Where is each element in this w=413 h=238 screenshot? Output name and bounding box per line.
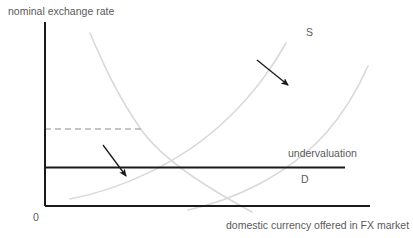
undervaluation-label: undervaluation [288,148,357,159]
supply-curve-original [70,43,286,199]
fx-market-diagram [0,0,413,238]
rate-fall-arrow [103,145,126,176]
origin-label: 0 [33,212,39,223]
y-axis-label: nominal exchange rate [8,6,114,17]
supply-curve-shifted [188,66,368,210]
x-axis-label: domestic currency offered in FX market [226,220,409,231]
demand-curve-label: D [301,174,309,185]
supply-curve-label: S [306,27,313,38]
demand-curve [90,33,252,212]
